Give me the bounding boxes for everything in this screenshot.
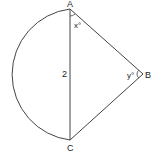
point-label-C: C	[67, 143, 74, 152]
angle-arc-B	[137, 70, 139, 78]
segment-BC	[70, 74, 143, 140]
angle-arc-A	[70, 14, 75, 16]
side-length-AC: 2	[62, 69, 67, 79]
point-label-A: A	[67, 0, 73, 9]
geometry-diagram: A B C 2 x° y°	[0, 0, 154, 152]
point-label-B: B	[145, 70, 151, 80]
segment-AB	[70, 9, 143, 74]
angle-label-y: y°	[127, 71, 134, 80]
angle-label-x: x°	[74, 21, 81, 30]
